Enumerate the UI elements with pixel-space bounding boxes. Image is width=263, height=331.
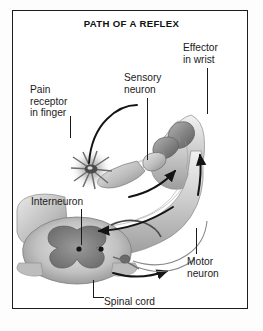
leader-effector xyxy=(207,68,208,114)
label-sensory-neuron: Sensory neuron xyxy=(124,72,161,95)
label-motor-neuron: Motor neuron xyxy=(187,256,219,279)
leader-spinal-cord-h xyxy=(93,297,104,298)
reflex-path-figure: PATH OF A REFLEX xyxy=(0,0,263,331)
leader-interneuron xyxy=(81,209,82,245)
label-interneuron: Interneuron xyxy=(31,196,83,208)
label-effector-in-wrist: Effector in wrist xyxy=(183,42,218,65)
motor-soma xyxy=(98,246,103,251)
leader-pain-receptor xyxy=(70,116,71,138)
leader-motor-neuron xyxy=(196,228,197,254)
interneuron-soma xyxy=(76,246,81,251)
pain-receptor-flash xyxy=(70,148,112,190)
label-pain-receptor: Pain receptor in finger xyxy=(30,84,67,119)
leader-sensory-neuron xyxy=(147,98,148,160)
leader-spinal-cord-v xyxy=(93,280,94,298)
label-spinal-cord: Spinal cord xyxy=(104,296,155,308)
